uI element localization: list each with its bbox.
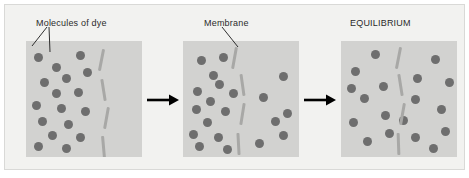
dye-molecule: [379, 82, 388, 91]
dye-molecule: [203, 118, 212, 127]
dye-molecule: [371, 50, 380, 59]
panel-equilibrium: [341, 41, 457, 157]
membrane-segment: [239, 103, 245, 125]
dye-molecule: [363, 137, 372, 146]
dye-molecule: [223, 145, 232, 154]
membrane-segment: [397, 133, 401, 155]
dye-molecule: [192, 105, 201, 114]
dye-molecule: [76, 133, 85, 142]
dye-molecule: [32, 101, 41, 110]
dye-molecule: [197, 56, 206, 65]
dye-molecule: [38, 117, 47, 126]
dye-molecule: [40, 78, 49, 87]
dye-molecule: [81, 107, 90, 116]
dye-molecule: [283, 109, 292, 118]
dye-molecule: [34, 142, 43, 151]
label-membrane: Membrane: [204, 18, 249, 29]
dye-molecule: [62, 144, 71, 153]
membrane-segment: [236, 133, 240, 155]
dye-molecule: [195, 142, 204, 151]
membrane-segment: [397, 74, 403, 96]
dye-molecule: [445, 78, 454, 87]
dye-molecule: [441, 127, 450, 136]
dye-molecule: [437, 105, 446, 114]
dye-molecule: [271, 117, 280, 126]
dye-molecule: [431, 55, 440, 64]
dye-molecule: [429, 144, 438, 153]
label-equilibrium: EQUILIBRIUM: [350, 18, 411, 29]
dye-molecule: [214, 133, 223, 142]
dye-molecule: [349, 118, 358, 127]
dye-molecule: [189, 130, 198, 139]
dye-molecule: [347, 84, 356, 93]
dye-molecule: [411, 133, 420, 142]
dye-molecule: [279, 72, 288, 81]
dye-molecule: [221, 107, 230, 116]
dye-molecule: [193, 87, 202, 96]
dye-molecule: [52, 89, 61, 98]
diffusion-diagram: Molecules of dye Membrane EQUILIBRIUM: [0, 0, 469, 178]
dye-molecule: [62, 74, 71, 83]
dye-molecule: [351, 67, 360, 76]
dye-molecule: [381, 111, 390, 120]
dye-molecule: [76, 51, 85, 60]
panel-diffusing: [183, 41, 299, 157]
membrane-segment: [231, 47, 238, 69]
membrane-segment: [395, 47, 402, 69]
dye-molecule: [64, 120, 73, 129]
dye-molecule: [413, 74, 422, 83]
label-molecules-of-dye: Molecules of dye: [36, 18, 107, 29]
dye-molecule: [34, 53, 43, 62]
dye-molecule: [219, 53, 228, 62]
dye-molecule: [360, 94, 369, 103]
dye-molecule: [255, 139, 264, 148]
dye-molecule: [83, 68, 92, 77]
dye-molecule: [259, 93, 268, 102]
dye-molecule: [52, 63, 61, 72]
membrane-segment: [98, 49, 105, 71]
dye-molecule: [411, 95, 420, 104]
dye-molecule: [279, 131, 288, 140]
membrane-segment: [100, 79, 106, 101]
dye-molecule: [215, 80, 224, 89]
panel-start: [26, 41, 142, 157]
dye-molecule: [209, 71, 218, 80]
dye-molecule: [206, 97, 215, 106]
figure-plate: Molecules of dye Membrane EQUILIBRIUM: [4, 4, 465, 170]
membrane-segment: [103, 107, 110, 129]
dye-molecule: [48, 131, 57, 140]
membrane-segment: [101, 136, 106, 157]
dye-molecule: [74, 88, 83, 97]
arrow-right-icon: [304, 91, 336, 109]
dye-molecule: [385, 129, 394, 138]
dye-molecule: [229, 89, 238, 98]
membrane-segment: [239, 74, 245, 96]
dye-molecule: [57, 104, 66, 113]
arrow-right-icon: [147, 91, 179, 109]
